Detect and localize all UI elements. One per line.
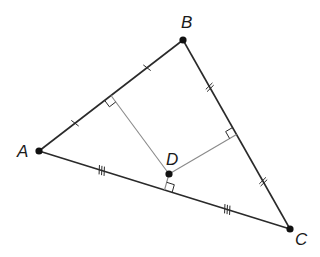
tick-mark-bc — [207, 85, 214, 92]
bisector-bc — [169, 135, 237, 175]
triangle-diagram: A B C D — [0, 0, 320, 257]
vertex-labels: A B C D — [16, 13, 308, 249]
label-d: D — [166, 150, 178, 169]
tick-mark-bc — [259, 177, 266, 184]
label-a: A — [16, 142, 28, 161]
tick-mark-bc — [261, 180, 268, 187]
right-angle-icon-ab — [105, 100, 116, 106]
tick-mark-bc — [206, 83, 213, 90]
point-a — [35, 147, 42, 154]
vertices — [35, 36, 293, 232]
right-angle-markers — [105, 100, 233, 192]
congruence-tick-marks — [71, 65, 267, 215]
point-c — [286, 225, 293, 232]
point-d — [165, 170, 172, 177]
label-b: B — [181, 13, 192, 32]
perpendicular-bisectors — [111, 96, 237, 191]
point-b — [179, 36, 186, 43]
triangle-sides — [39, 40, 290, 229]
label-c: C — [295, 230, 308, 249]
bisector-ab — [111, 96, 169, 175]
